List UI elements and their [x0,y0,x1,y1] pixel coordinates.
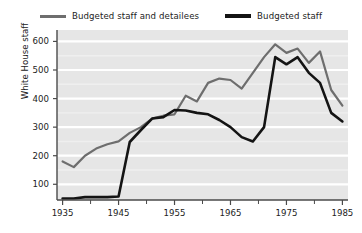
x-tick-label-1945: 1945 [108,208,130,218]
y-tick-label-100: 100 [33,179,49,189]
y-tick-group: 100200300400500600 [33,36,57,189]
plot-area: 100200300400500600 193519451955196519751… [0,0,362,233]
x-tick-label-1935: 1935 [52,208,74,218]
y-tick-label-200: 200 [33,151,49,161]
x-tick-label-1975: 1975 [276,208,298,218]
y-tick-label-300: 300 [33,122,49,132]
x-tick-group: 193519451955196519751985 [52,200,354,218]
y-tick-label-400: 400 [33,94,49,104]
chart-container: Budgeted staff and detailees Budgeted st… [0,0,362,233]
y-tick-label-500: 500 [33,65,49,75]
x-tick-label-1985: 1985 [331,208,353,218]
x-tick-label-1955: 1955 [164,208,186,218]
y-tick-label-600: 600 [33,36,49,46]
x-tick-label-1965: 1965 [220,208,242,218]
